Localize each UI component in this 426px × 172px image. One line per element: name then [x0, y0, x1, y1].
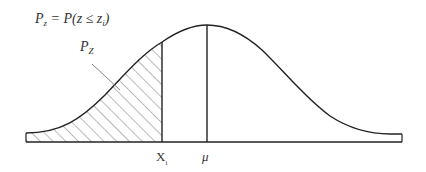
area-label-pz: PZ — [79, 39, 95, 56]
normal-distribution-diagram: Pz = P(z ≤ zi) PZ Xi μ — [0, 0, 426, 172]
area-label-main: P — [79, 39, 89, 54]
formula-label: Pz = P(z ≤ zi) — [34, 11, 110, 28]
pz-leader-line — [92, 64, 120, 90]
formula-eq: = P(z ≤ z — [47, 11, 103, 27]
xi-label-sub: i — [165, 159, 167, 167]
formula-close: ) — [104, 11, 110, 27]
xi-label: Xi — [156, 149, 167, 167]
area-label-sub: Z — [89, 46, 95, 56]
mu-label: μ — [201, 149, 209, 164]
formula-lhs-main: P — [34, 11, 44, 26]
